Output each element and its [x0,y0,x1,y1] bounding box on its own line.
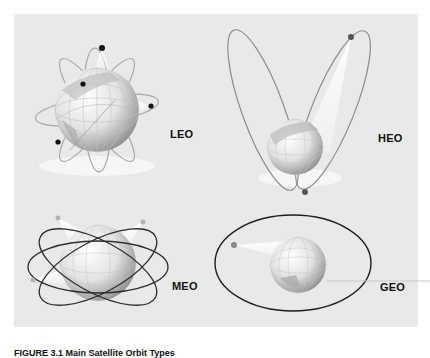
heo-satellite-apogee [348,34,354,40]
figure-caption: FIGURE 3.1 Main Satellite Orbit Types [14,348,175,358]
heo-label: HEO [378,132,402,144]
meo-label: MEO [172,280,198,292]
meo-diagram [28,214,168,321]
heo-diagram [214,23,384,197]
geo-label: GEO [380,281,405,293]
heo-satellite-perigee [302,189,308,195]
leo-label: LEO [170,128,193,140]
leo-shadow [39,156,155,176]
meo-globe [60,225,136,301]
leo-diagram [34,45,161,176]
geo-satellite [231,242,237,248]
geo-diagram [215,215,430,311]
